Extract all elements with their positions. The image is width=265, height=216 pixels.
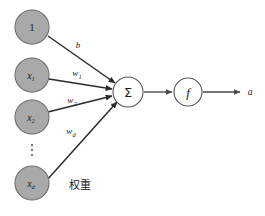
input-node-xd[interactable]: xd — [15, 166, 49, 200]
output-label: a — [248, 87, 253, 97]
edge-label-bias: b — [76, 40, 81, 50]
edge-label-wd-subscript: d — [72, 130, 76, 137]
edge-wd-line — [47, 102, 117, 180]
edge-label-w1-subscript: 1 — [78, 72, 81, 79]
input-node-x2[interactable]: x2 — [15, 100, 49, 134]
edge-group-weights — [47, 36, 117, 180]
input-node-bias[interactable]: 1 — [15, 10, 49, 44]
edge-w2-line — [48, 96, 112, 112]
summation-node-label: Σ — [124, 85, 132, 100]
input-node-x1-subscript: 1 — [32, 74, 35, 81]
activation-node[interactable]: f — [174, 78, 202, 106]
input-node-bias-label: 1 — [30, 22, 35, 33]
vertical-ellipsis-icon — [31, 144, 33, 156]
edge-label-wd: wd — [66, 126, 76, 137]
neuron-diagram-canvas: 1 x1 x2 xd b w1 w2 wd 权重 Σ — [0, 0, 265, 216]
weights-annotation-label: 权重 — [69, 178, 91, 192]
edge-w1-line — [49, 79, 112, 89]
edge-label-w1: w1 — [72, 68, 81, 79]
summation-node[interactable]: Σ — [113, 77, 143, 107]
input-node-x1[interactable]: x1 — [15, 58, 49, 92]
edge-label-w2: w2 — [67, 95, 77, 106]
neuron-diagram: 1 x1 x2 xd b w1 w2 wd 权重 Σ — [0, 0, 265, 216]
